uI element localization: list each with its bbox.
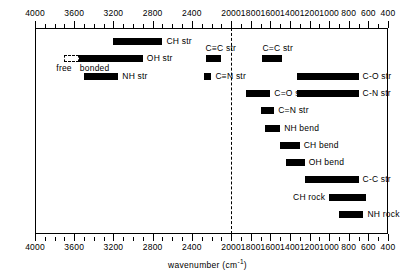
band-nh-str (84, 73, 118, 80)
band-label-nh-rock: NH rock (367, 210, 399, 219)
band-label-cn-triple-str: C≡N str (216, 72, 246, 81)
major-tick (290, 21, 291, 28)
band-segment (280, 142, 300, 149)
major-tick (153, 234, 154, 241)
band-sublabel-free-label: free (56, 63, 71, 73)
band-c-c-str (305, 176, 359, 183)
band-label-ch-rock: CH rock (293, 193, 325, 202)
band-label-c-o-str: C-O str (363, 72, 392, 81)
band-label-oh-bend: OH bend (309, 158, 344, 167)
minor-tick (55, 237, 56, 241)
axis-tick-label: 3200 (104, 8, 124, 18)
axis-tick-label: 2400 (182, 242, 202, 252)
minor-tick (241, 237, 242, 241)
minor-tick (162, 237, 163, 241)
minor-tick (172, 237, 173, 241)
band-label-cc-triple-str: C≡C str (206, 44, 236, 53)
band-label-ch-bend: CH bend (304, 141, 339, 150)
minor-tick (339, 237, 340, 241)
axis-tick-label: 1600 (260, 8, 280, 18)
axis-tick-label: 3200 (104, 242, 124, 252)
major-tick (349, 21, 350, 28)
minor-tick (84, 237, 85, 241)
band-label-c-c-str: C-C str (363, 175, 391, 184)
axis-tick-label: 400 (381, 242, 396, 252)
minor-tick (300, 237, 301, 241)
band-segment (265, 125, 280, 132)
major-tick (192, 234, 193, 241)
band-segment (206, 55, 222, 62)
band-label-cc-double-str: C=C str (262, 44, 292, 53)
band-c-o-str (297, 73, 359, 80)
major-tick (329, 234, 330, 241)
axis-tick-label: 600 (361, 242, 376, 252)
band-oh-bend (286, 159, 305, 166)
bottom-axis-tick-labels: 4000360032002800240020001800160014001200… (0, 242, 415, 254)
band-segment (262, 55, 282, 62)
band-ch-rock (329, 194, 366, 201)
minor-tick (143, 237, 144, 241)
band-label-oh-str: OH str (147, 54, 173, 63)
axis-tick-label: 1400 (280, 242, 300, 252)
minor-tick (202, 237, 203, 241)
major-tick (349, 234, 350, 241)
ir-correlation-chart: 4000360032002800240020001800160014001200… (0, 0, 415, 280)
band-ch-str (113, 38, 162, 45)
band-nh-rock (339, 211, 364, 218)
minor-tick (123, 237, 124, 241)
band-label-nh-str: NH str (122, 72, 147, 81)
minor-tick (212, 237, 213, 241)
minor-tick (319, 237, 320, 241)
axis-tick-label: 600 (361, 8, 376, 18)
axis-tick-label: 2000 (221, 8, 241, 18)
major-tick (231, 234, 232, 241)
x-axis-unit-exponent: -1 (237, 258, 243, 265)
major-tick (35, 234, 36, 241)
top-axis-tick-labels: 4000360032002800240020001800160014001200… (0, 8, 415, 20)
band-segment (305, 176, 359, 183)
band-segment-free (64, 55, 79, 62)
band-ch-bend (280, 142, 300, 149)
major-tick (74, 234, 75, 241)
major-tick (270, 234, 271, 241)
band-segment (261, 107, 275, 114)
minor-tick (182, 237, 183, 241)
minor-tick (378, 237, 379, 241)
axis-tick-label: 3600 (64, 242, 84, 252)
band-label-cn-double-str: C=N str (278, 106, 308, 115)
band-segment (204, 73, 212, 80)
band-segment (84, 73, 118, 80)
major-tick (231, 21, 232, 28)
major-tick (35, 21, 36, 28)
band-label-c-n-str: C-N str (363, 89, 391, 98)
major-tick (290, 234, 291, 241)
band-label-ch-str: CH str (166, 37, 191, 46)
axis-tick-label: 1200 (300, 8, 320, 18)
band-cc-triple-str (206, 55, 222, 62)
axis-tick-label: 2000 (221, 242, 241, 252)
major-tick (192, 21, 193, 28)
axis-tick-label: 2800 (143, 8, 163, 18)
axis-tick-label: 800 (341, 242, 356, 252)
major-tick (153, 21, 154, 28)
axis-tick-label: 1400 (280, 8, 300, 18)
axis-tick-label: 3600 (64, 8, 84, 18)
band-oh-str (64, 55, 142, 62)
band-c-n-str (297, 90, 359, 97)
axis-tick-label: 1800 (241, 242, 261, 252)
band-cn-triple-str (204, 73, 212, 80)
major-tick (310, 21, 311, 28)
band-cn-double-str (261, 107, 275, 114)
band-segment (286, 159, 305, 166)
major-tick (113, 234, 114, 241)
axis-tick-label: 1600 (260, 242, 280, 252)
axis-tick-label: 1000 (319, 242, 339, 252)
axis-tick-label: 4000 (25, 8, 45, 18)
major-tick (251, 21, 252, 28)
axis-tick-label: 1200 (300, 242, 320, 252)
band-co-double-str (246, 90, 271, 97)
minor-tick (359, 237, 360, 241)
major-tick (113, 21, 114, 28)
divider-line-2000 (231, 28, 232, 234)
minor-tick (45, 237, 46, 241)
